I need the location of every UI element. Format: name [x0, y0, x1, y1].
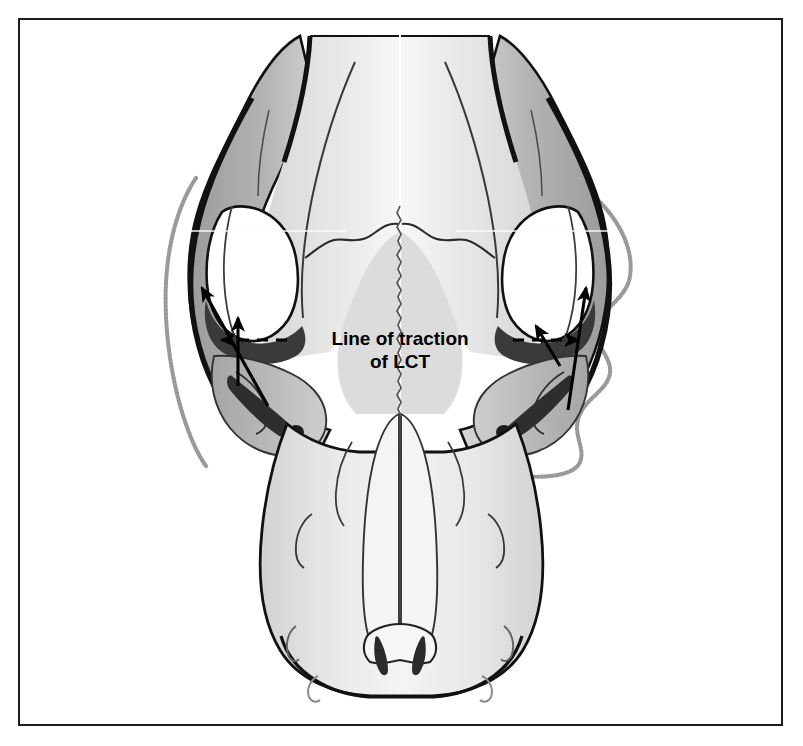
- nasal-bone-left: [363, 414, 399, 638]
- nasal-bone-right: [401, 414, 437, 638]
- skull-diagram: Line of traction of LCT: [0, 0, 803, 746]
- figure-root: Line of traction of LCT: [0, 0, 803, 746]
- traction-label-line1: Line of traction: [331, 328, 468, 349]
- traction-label-line2: of LCT: [370, 351, 431, 372]
- skull-group: Line of traction of LCT: [166, 36, 631, 702]
